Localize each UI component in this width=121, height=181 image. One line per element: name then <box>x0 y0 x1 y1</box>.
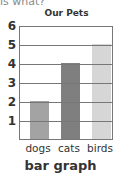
x-label-birds: birds <box>85 142 115 154</box>
gridline-2 <box>20 102 112 103</box>
x-label-cats: cats <box>54 142 84 154</box>
y-tick-3: 3 <box>2 77 16 89</box>
x-label-dogs: dogs <box>23 142 53 154</box>
gridline-1 <box>20 121 112 122</box>
y-tick-4: 4 <box>2 58 16 70</box>
y-tick-5: 5 <box>2 39 16 51</box>
bar-birds <box>92 44 111 139</box>
plot-area <box>19 26 113 140</box>
chart-title: Our Pets <box>19 8 114 18</box>
gridline-5 <box>20 45 112 46</box>
gridline-4 <box>20 64 112 65</box>
gridline-3 <box>20 83 112 84</box>
y-tick-6: 6 <box>2 20 16 32</box>
bar-dogs <box>30 101 49 139</box>
y-tick-2: 2 <box>2 96 16 108</box>
question-fragment: is what? <box>0 0 45 8</box>
y-tick-1: 1 <box>2 115 16 127</box>
chart-caption: bar graph <box>0 158 121 173</box>
bar-cats <box>61 63 80 139</box>
